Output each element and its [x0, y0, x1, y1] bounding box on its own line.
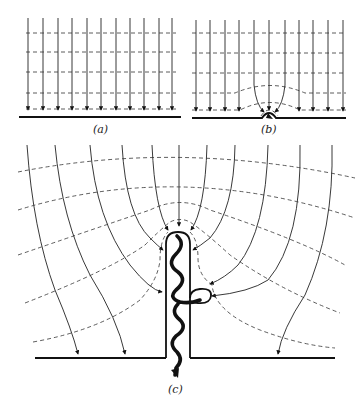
panel-a: (a): [19, 18, 181, 136]
panel-c-discharge-streamer: [171, 236, 200, 375]
panel-a-label: (a): [93, 123, 108, 136]
panel-c-label: (c): [168, 383, 183, 396]
field-diagram: (a) (b): [0, 0, 363, 403]
panel-a-field-lines: [28, 18, 172, 110]
panel-c: (c): [18, 145, 355, 396]
panel-b-field-lines: [196, 20, 343, 112]
panel-c-equipotentials: [18, 157, 355, 348]
panel-b-label: (b): [261, 123, 277, 136]
panel-b: (b): [192, 20, 346, 136]
